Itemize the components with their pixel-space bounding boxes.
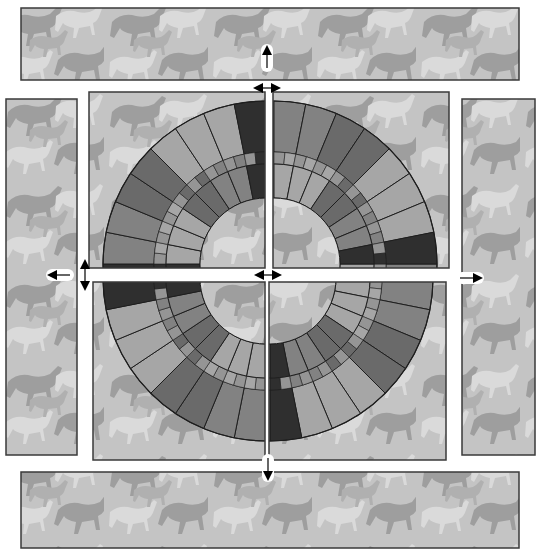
- strip-bottom: [21, 472, 519, 548]
- exploded-ring-diagram: [0, 0, 542, 556]
- arrow-left-icon: [46, 269, 74, 281]
- arrow-down-icon: [262, 454, 274, 482]
- ring-quadrants: [89, 92, 449, 460]
- arrow-up-icon: [261, 44, 273, 72]
- arrow-right-icon: [456, 272, 484, 284]
- arrow-center-icon: [254, 270, 282, 280]
